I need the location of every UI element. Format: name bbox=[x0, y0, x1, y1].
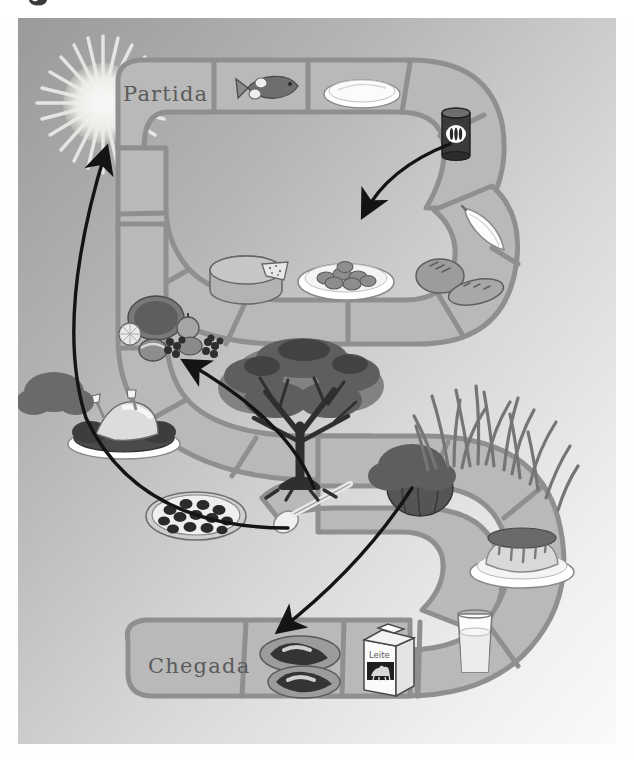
corner-logo-icon bbox=[26, 0, 50, 12]
meat-cuts-icon bbox=[260, 636, 340, 698]
board-game-page: Partida Chegada bbox=[0, 0, 634, 760]
empty-plate-icon bbox=[324, 80, 400, 108]
milk-carton-label: Leite bbox=[369, 650, 390, 660]
top-white-bar bbox=[0, 0, 634, 18]
board-illustration: Partida Chegada bbox=[18, 18, 616, 744]
cheese-wheel-icon bbox=[210, 256, 288, 304]
canned-food-icon bbox=[442, 108, 470, 161]
cell-label-chegada: Chegada bbox=[148, 654, 250, 678]
cell-label-partida: Partida bbox=[123, 82, 208, 106]
milk-glass-icon bbox=[458, 610, 492, 672]
